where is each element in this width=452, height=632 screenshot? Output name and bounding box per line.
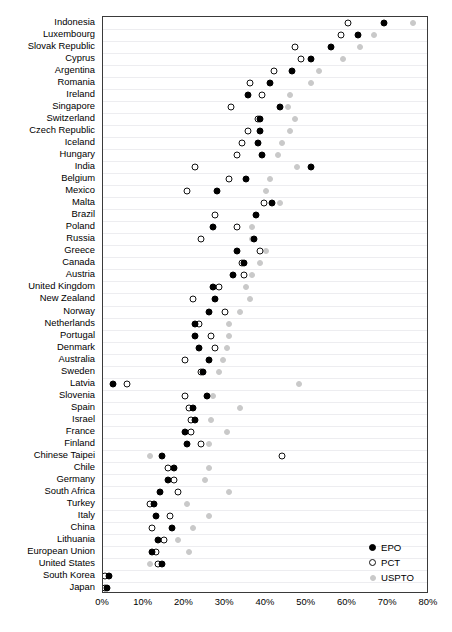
pct-point: [187, 428, 194, 435]
uspto-point: [147, 561, 153, 567]
uspto-point: [267, 176, 273, 182]
pct-point: [246, 80, 253, 87]
epo-point: [181, 428, 188, 435]
y-axis-tick-label: Germany: [56, 474, 95, 484]
epo-point: [155, 536, 162, 543]
y-axis-tick-label: China: [71, 522, 96, 532]
epo-point: [104, 584, 111, 591]
epo-point: [234, 248, 241, 255]
uspto-point: [277, 200, 283, 206]
pct-point: [238, 140, 245, 147]
y-axis-tick-label: Denmark: [57, 342, 95, 352]
y-axis-tick-label: Hungary: [60, 149, 95, 159]
uspto-point: [190, 525, 196, 531]
y-axis-tick-label: Poland: [66, 221, 95, 231]
pct-point: [297, 56, 304, 63]
epo-point: [203, 392, 210, 399]
legend-item-epo: EPO: [368, 540, 424, 555]
y-axis-tick-label: United Kingdom: [28, 281, 95, 291]
y-axis-tick-label: South Korea: [43, 570, 95, 580]
pct-point: [216, 284, 223, 291]
y-axis-tick-label: India: [75, 161, 95, 171]
pct-point: [228, 104, 235, 111]
epo-point: [214, 188, 221, 195]
uspto-point: [186, 549, 192, 555]
epo-point: [267, 80, 274, 87]
pct-point: [271, 68, 278, 75]
uspto-point: [316, 68, 322, 74]
pct-point: [197, 440, 204, 447]
pct-point: [167, 512, 174, 519]
y-axis-tick-label: Finland: [64, 438, 95, 448]
epo-point: [256, 116, 263, 123]
uspto-point: [224, 429, 230, 435]
epo-point: [210, 284, 217, 291]
epo-point: [195, 344, 202, 351]
plot-area: [102, 16, 428, 593]
uspto-point: [410, 20, 416, 26]
epo-point: [256, 128, 263, 135]
uspto-point: [210, 393, 216, 399]
uspto-point: [249, 272, 255, 278]
pct-point: [183, 188, 190, 195]
epo-point: [307, 164, 314, 171]
uspto-point: [226, 489, 232, 495]
epo-point: [210, 224, 217, 231]
pct-point: [148, 524, 155, 531]
epo-point: [159, 452, 166, 459]
y-axis-tick-label: Singapore: [52, 101, 95, 111]
pct-point: [197, 236, 204, 243]
uspto-point: [308, 80, 314, 86]
epo-point: [307, 56, 314, 63]
pct-point: [244, 128, 251, 135]
epo-point: [252, 212, 259, 219]
x-axis-tick-label: 20%: [174, 596, 193, 608]
pct-point: [234, 152, 241, 159]
y-axis-tick-label: Czech Republic: [29, 125, 95, 135]
y-axis-tick-label: Slovak Republic: [28, 41, 95, 51]
epo-point: [289, 68, 296, 75]
pct-marker-icon: [368, 559, 377, 566]
pct-point: [291, 44, 298, 51]
y-axis-tick-label: Luxembourg: [43, 29, 95, 39]
uspto-point: [184, 501, 190, 507]
epo-point: [328, 44, 335, 51]
epo-point: [189, 404, 196, 411]
uspto-point: [249, 224, 255, 230]
data-points-layer: [103, 17, 427, 592]
x-axis-tick-label: 30%: [215, 596, 234, 608]
pct-point: [175, 488, 182, 495]
x-axis-tick-label: 80%: [419, 596, 438, 608]
epo-point: [152, 512, 159, 519]
epo-point: [269, 200, 276, 207]
uspto-point: [263, 248, 269, 254]
uspto-point: [279, 140, 285, 146]
epo-point: [150, 500, 157, 507]
pct-point: [338, 32, 345, 39]
x-axis-tick-label: 70%: [378, 596, 397, 608]
y-axis-tick-label: New Zealand: [40, 293, 95, 303]
legend-label-epo: EPO: [381, 543, 401, 553]
uspto-point: [243, 284, 249, 290]
epo-marker-icon: [368, 544, 377, 551]
pct-point: [207, 332, 214, 339]
epo-point: [169, 524, 176, 531]
pct-point: [260, 200, 267, 207]
epo-point: [148, 548, 155, 555]
epo-point: [157, 488, 164, 495]
epo-point: [254, 140, 261, 147]
y-axis-tick-label: Greece: [64, 245, 95, 255]
uspto-point: [285, 104, 291, 110]
pct-point: [226, 176, 233, 183]
y-axis-tick-label: Australia: [59, 354, 95, 364]
pct-point: [191, 164, 198, 171]
y-axis-tick-label: Austria: [66, 269, 95, 279]
epo-point: [165, 476, 172, 483]
y-axis-tick-label: Spain: [71, 402, 95, 412]
y-axis-tick-label: Latvia: [70, 378, 95, 388]
y-axis-tick-label: Slovenia: [59, 390, 95, 400]
uspto-point: [296, 381, 302, 387]
epo-point: [277, 104, 284, 111]
uspto-point: [292, 116, 298, 122]
pct-point: [279, 452, 286, 459]
